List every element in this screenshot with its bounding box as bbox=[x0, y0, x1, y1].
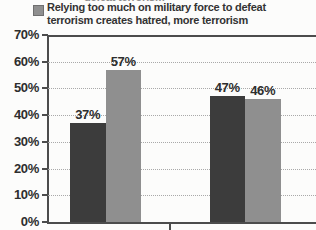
y-axis-tick-40 bbox=[42, 114, 48, 116]
y-axis-label-50: 50% bbox=[0, 80, 39, 95]
legend-label: Relying too much on military force to de… bbox=[47, 1, 313, 27]
y-axis-label-20: 20% bbox=[0, 161, 39, 176]
bar-chart: defeat terrorism Relying too much on mil… bbox=[0, 0, 316, 230]
y-axis-label-30: 30% bbox=[0, 134, 39, 149]
y-axis-tick-30 bbox=[42, 141, 48, 143]
bar-group1-series1 bbox=[70, 123, 106, 222]
x-axis-divider-tick bbox=[169, 224, 171, 230]
gridline-60 bbox=[48, 62, 316, 63]
y-axis-tick-10 bbox=[42, 194, 48, 196]
bar-group2-series1 bbox=[210, 96, 246, 222]
y-axis-label-60: 60% bbox=[0, 54, 39, 69]
y-axis-tick-60 bbox=[42, 61, 48, 63]
y-axis-tick-70 bbox=[42, 34, 48, 36]
bar-value-label: 46% bbox=[241, 83, 285, 98]
y-axis-label-10: 10% bbox=[0, 187, 39, 202]
y-axis-label-40: 40% bbox=[0, 107, 39, 122]
bar-value-label: 37% bbox=[66, 107, 110, 122]
bar-group1-series2 bbox=[106, 70, 142, 222]
bar-group2-series2 bbox=[245, 99, 281, 222]
y-axis-tick-50 bbox=[42, 87, 48, 89]
legend-swatch-icon bbox=[33, 5, 44, 16]
y-axis-tick-20 bbox=[42, 168, 48, 170]
y-axis-tick-0 bbox=[42, 221, 48, 223]
y-axis-label-70: 70% bbox=[0, 27, 39, 42]
plot-top-border bbox=[48, 35, 316, 37]
y-axis-label-0: 0% bbox=[0, 214, 39, 229]
bar-value-label: 57% bbox=[102, 54, 146, 69]
x-axis-line bbox=[47, 222, 316, 224]
